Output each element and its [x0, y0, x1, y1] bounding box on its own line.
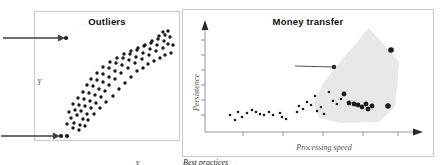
- scatter-plot-money-transfer: [183, 10, 435, 158]
- outlier-point-top: [64, 36, 68, 40]
- annotation-best-practices: Best practices: [183, 158, 433, 165]
- axis-label-y-left: Y: [37, 78, 41, 87]
- axis-y: [201, 20, 208, 132]
- axis-label-x-left: X: [135, 160, 140, 165]
- axis-x: [205, 129, 423, 136]
- axis-label-y-right: Persistence: [192, 58, 201, 128]
- best-practices-leader: [295, 65, 336, 69]
- panel-money-transfer: Money transfer: [182, 9, 434, 157]
- panel-title-outliers: Outliers: [35, 16, 179, 27]
- outlier-point-bottom: [59, 134, 69, 138]
- panel-outliers: Outliers: [34, 11, 180, 141]
- best-practices-region: [314, 28, 399, 123]
- panel-title-money-transfer: Money transfer: [183, 16, 433, 27]
- outliers-main-cloud: [65, 29, 174, 131]
- axis-label-x-right: Processing speed: [269, 143, 379, 152]
- scatter-plot-outliers: [35, 12, 181, 142]
- figure-root: Outliers: [0, 0, 442, 165]
